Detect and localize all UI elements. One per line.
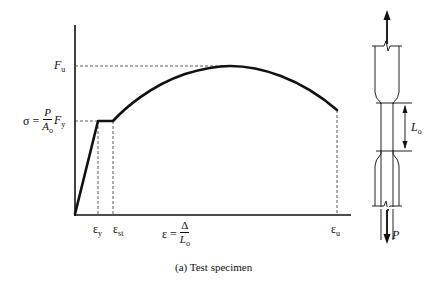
tick-label-fu: Fu xyxy=(54,59,65,74)
stress-strain-curve xyxy=(75,66,337,214)
gauge-length-label: Lo xyxy=(411,121,422,136)
tick-label-fy: Fy xyxy=(54,114,65,129)
tick-label-est: εst xyxy=(113,223,123,238)
tick-label-ey: εy xyxy=(93,223,102,238)
y-axis-label: σ = P Ao xyxy=(23,107,53,135)
stress-strain-diagram xyxy=(0,0,441,303)
figure-caption: (a) Test specimen xyxy=(175,262,252,273)
tick-label-eu: εu xyxy=(331,223,340,238)
guide-lines xyxy=(75,66,337,215)
x-axis-label: ε = Δ Lo xyxy=(162,220,190,248)
load-label: P xyxy=(392,229,399,241)
